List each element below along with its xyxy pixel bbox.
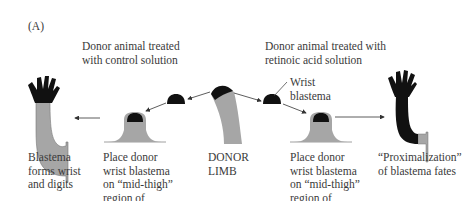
arrow-blastema-to-left-stump (146, 103, 166, 111)
regenerated-limb-retinoic (388, 70, 428, 162)
caption-line: region of (290, 192, 360, 202)
caption-donor-limb: DONOR LIMB (208, 151, 249, 178)
caption-line: wrist blastema (103, 165, 173, 179)
caption-place-right: Place donor wrist blastema on “mid-thigh… (290, 151, 360, 201)
caption-line: Place donor (103, 151, 173, 165)
caption-line: LIMB (208, 165, 249, 179)
caption-line: region of (103, 192, 173, 202)
caption-line: on “mid-thigh” (103, 178, 173, 192)
arrow-donor-to-retinoic-blastema (234, 93, 261, 101)
wrist-blastema-retinoic (263, 94, 281, 104)
thigh-stump-retinoic (290, 112, 352, 142)
arrow-blastema-to-right-stump (283, 104, 306, 113)
caption-line: wrist blastema (290, 165, 360, 179)
caption-line: Place donor (290, 151, 360, 165)
callout-leader-line (274, 82, 287, 96)
thigh-stump-control (104, 112, 166, 142)
wrist-blastema-control (167, 94, 185, 104)
caption-line: “Proximalization” (378, 151, 462, 165)
caption-line: DONOR (208, 151, 249, 165)
caption-line: forms wrist (28, 165, 81, 179)
caption-blastema-forms: Blastema forms wrist and digits (28, 151, 81, 192)
caption-line: on “mid-thigh” (290, 178, 360, 192)
arrow-donor-to-control-blastema (188, 92, 210, 99)
caption-line: and digits (28, 178, 81, 192)
caption-line: of blastema fates (378, 165, 462, 179)
caption-place-left: Place donor wrist blastema on “mid-thigh… (103, 151, 173, 201)
donor-limb (211, 86, 242, 144)
caption-proximalization: “Proximalization” of blastema fates (378, 151, 462, 178)
caption-line: Blastema (28, 151, 81, 165)
